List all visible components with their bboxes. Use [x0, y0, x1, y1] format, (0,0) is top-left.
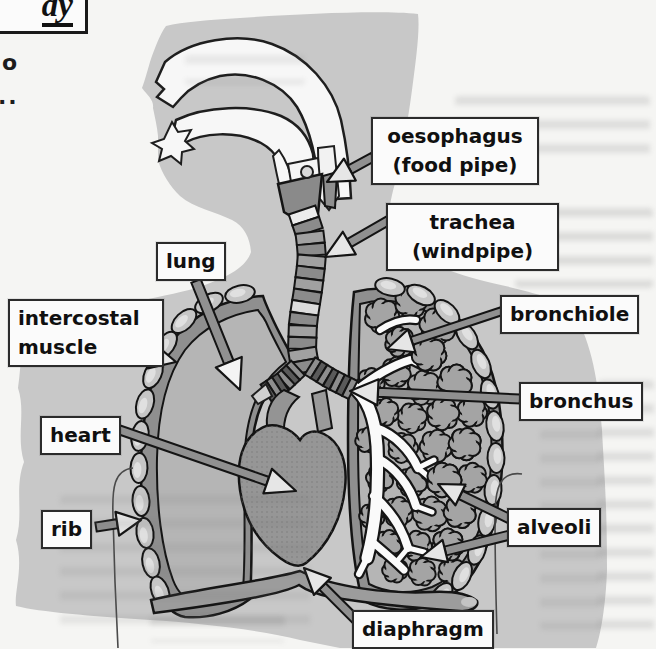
rib-shape — [487, 443, 505, 474]
alveoli-core — [432, 403, 454, 425]
alveoli-core — [412, 562, 431, 581]
alveoli-cluster — [408, 558, 436, 586]
arrow-shaft — [95, 519, 118, 531]
label-heart: heart — [40, 416, 121, 455]
alveoli-cluster — [427, 398, 459, 430]
diaphragm-tip-highlight — [461, 597, 477, 607]
label-intercostal-muscle: intercostal muscle — [8, 299, 164, 367]
label-alveoli: alveoli — [507, 508, 601, 547]
alveoli-core — [454, 433, 476, 455]
label-bronchiole: bronchiole — [500, 295, 639, 334]
alveoli-cluster — [449, 428, 481, 460]
alveoli-core — [462, 402, 483, 423]
alveoli-core — [425, 435, 447, 457]
larynx-knob — [301, 166, 313, 178]
alveoli-core — [417, 342, 441, 366]
label-trachea: trachea (windpipe) — [386, 203, 559, 271]
alveoli-core — [402, 408, 423, 429]
label-oesophagus: oesophagus (food pipe) — [371, 117, 539, 185]
label-rib: rib — [41, 510, 92, 549]
margin-text-fragment: .. — [0, 86, 19, 108]
margin-text-fragment: o — [2, 52, 17, 74]
label-lung: lung — [156, 242, 226, 281]
rib-shape — [132, 486, 151, 517]
trachea-ring — [288, 325, 316, 338]
label-diaphragm: diaphragm — [352, 610, 494, 649]
alveoli-cluster — [397, 403, 427, 433]
page-title-fragment: dy — [42, 0, 73, 27]
page-title-box: dy — [0, 0, 88, 34]
label-bronchus: bronchus — [519, 382, 643, 421]
